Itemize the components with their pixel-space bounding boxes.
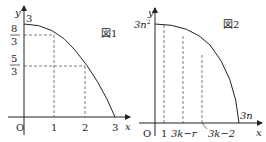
origin-label: O <box>143 128 151 139</box>
figure-1-caption: 図1 <box>101 28 117 39</box>
y-frac-5-den: 3 <box>11 66 17 77</box>
x-tick-3k-r: 3k−r <box>171 128 198 139</box>
figure-1: y x O 3 8 3 5 3 1 2 3 図1 <box>8 6 131 135</box>
x-axis-label: x <box>125 121 131 132</box>
y-frac-5-num: 5 <box>11 53 17 64</box>
y-frac-8-den: 3 <box>11 36 17 47</box>
y-axis-label: y <box>147 7 154 18</box>
x-tick-2: 2 <box>82 122 88 133</box>
x-end-3n: 3n <box>240 110 253 121</box>
y-axis-label: y <box>14 7 21 18</box>
curve <box>155 24 239 123</box>
x-tick-3: 3 <box>112 122 118 133</box>
y-tick-3: 3 <box>26 13 32 24</box>
y-tick-3n2: 3n2 <box>134 18 151 30</box>
figure-2-caption: 図2 <box>223 19 239 30</box>
diagram-canvas: y x O 3 8 3 5 3 1 2 3 図1 y x O 3n2 1 3k−… <box>0 0 266 142</box>
x-tick-1: 1 <box>161 128 167 139</box>
figure-2: y x O 3n2 1 3k−r 3k−2 3n 図2 <box>134 7 262 139</box>
x-tick-3k-2: 3k−2 <box>208 128 235 139</box>
leader-line <box>202 123 207 129</box>
y-frac-8-num: 8 <box>11 23 17 34</box>
x-axis-label: x <box>256 127 262 138</box>
origin-label: O <box>16 122 24 133</box>
x-tick-1: 1 <box>51 122 57 133</box>
